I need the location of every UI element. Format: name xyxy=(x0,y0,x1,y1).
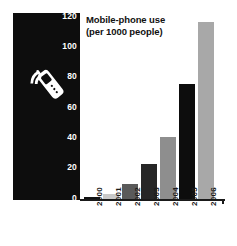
y-axis-tick-40: 40 xyxy=(37,133,77,142)
y-axis-tick-120: 120 xyxy=(37,12,77,21)
y-axis-tick-80: 80 xyxy=(37,72,77,81)
x-axis-label-2002: 2002 xyxy=(133,187,142,206)
x-axis-label-2000: 2000 xyxy=(95,187,104,206)
plot-area xyxy=(80,13,226,200)
x-axis-label-2006: 2006 xyxy=(209,187,218,206)
x-axis-label-2005: 2005 xyxy=(190,187,199,206)
mobile-phone-use-bar-chart: 120 100 80 60 40 20 0 Mobile-phone use (… xyxy=(0,0,237,246)
dark-side-panel: 120 100 80 60 40 20 0 xyxy=(13,13,80,200)
x-axis-end-tick xyxy=(222,199,224,204)
x-axis-label-2003: 2003 xyxy=(152,187,161,206)
bar-2005 xyxy=(179,84,195,201)
mobile-phone-icon xyxy=(27,61,71,105)
x-axis-label-2004: 2004 xyxy=(171,187,180,206)
y-axis-tick-0: 0 xyxy=(37,194,77,203)
bar-2006 xyxy=(198,22,214,200)
y-axis-tick-20: 20 xyxy=(37,163,77,172)
y-axis-tick-60: 60 xyxy=(37,103,77,112)
y-axis-tick-100: 100 xyxy=(37,42,77,51)
x-axis-label-2001: 2001 xyxy=(114,187,123,206)
